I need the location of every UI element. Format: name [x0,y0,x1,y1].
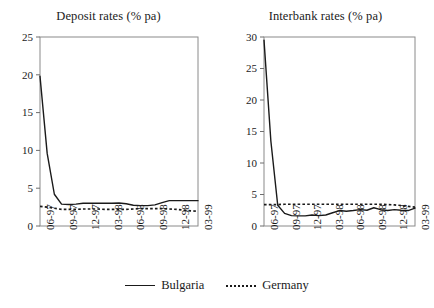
y-tick-label: 20 [22,69,34,81]
series-line-germany-deposit [40,206,198,211]
y-tick-label: 30 [246,31,258,43]
y-tick-label: 15 [22,106,34,118]
y-tick-label: 5 [252,188,258,200]
y-tick-label: 10 [22,144,34,156]
legend-swatch-solid-line-icon [125,285,155,286]
panel-deposit-rates: Deposit rates (% pa) 0510152025 06-9709-… [0,0,217,272]
y-axis-ticks-deposit [36,37,40,226]
y-axis-ticks-interbank [260,37,264,226]
panel-row: Deposit rates (% pa) 0510152025 06-9709-… [0,0,434,272]
series-line-bulgaria-deposit [40,76,198,205]
chart-legend: Bulgaria Germany [0,278,434,293]
y-tick-label: 20 [246,94,258,106]
legend-swatch-dotted-line-icon [226,285,256,287]
plot-frame [40,37,198,226]
series-line-germany-interbank [264,204,415,207]
y-tick-label: 0 [28,220,34,232]
y-tick-label: 10 [246,157,258,169]
y-tick-label: 25 [22,31,34,43]
figure-two-panel-interest-rates: Deposit rates (% pa) 0510152025 06-9709-… [0,0,434,308]
series-line-bulgaria-interbank [264,40,415,216]
plot-area-deposit-rates: 0510152025 06-9709-9712-9703-9806-9809-9… [0,0,217,272]
legend-label-germany: Germany [262,278,309,293]
legend-item-germany: Germany [226,278,309,293]
y-axis-labels-deposit: 0510152025 [22,31,34,232]
plot-area-interbank-rates: 051015202530 06-9709-9712-9703-9806-9809… [217,0,434,272]
panel-interbank-rates: Interbank rates (% pa) 051015202530 06-9… [217,0,434,272]
y-axis-labels-interbank: 051015202530 [246,31,258,232]
chart-svg-interbank-rates: 051015202530 [217,0,434,272]
plot-frame [264,37,415,226]
y-tick-label: 5 [28,182,34,194]
y-tick-label: 0 [252,220,258,232]
legend-item-bulgaria: Bulgaria [125,278,204,293]
chart-svg-deposit-rates: 0510152025 [0,0,217,272]
y-tick-label: 15 [246,125,258,137]
y-tick-label: 25 [246,62,258,74]
legend-label-bulgaria: Bulgaria [161,278,204,293]
